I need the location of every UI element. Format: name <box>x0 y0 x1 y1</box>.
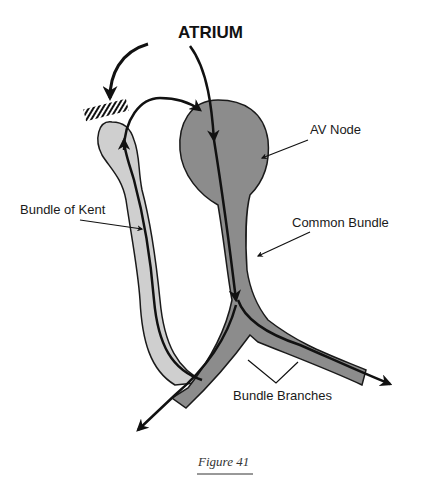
atrial-tissue-hatch <box>83 99 129 121</box>
av-node-label: AV Node <box>310 122 361 137</box>
common-bundle-pointer <box>258 232 310 256</box>
common-bundle-label: Common Bundle <box>292 215 389 230</box>
bundle-branches-label: Bundle Branches <box>233 388 333 403</box>
atrium-label: ATRIUM <box>178 23 243 42</box>
pre-excitation-diagram: ATRIUM AV Node Bundle of Kent Common Bun… <box>0 0 426 487</box>
bundle-of-kent-label: Bundle of Kent <box>20 202 106 217</box>
atrium-to-kent-arrow <box>110 44 148 98</box>
bundle-branches-pointer <box>248 360 298 383</box>
figure-caption: Figure 41 <box>197 454 249 469</box>
